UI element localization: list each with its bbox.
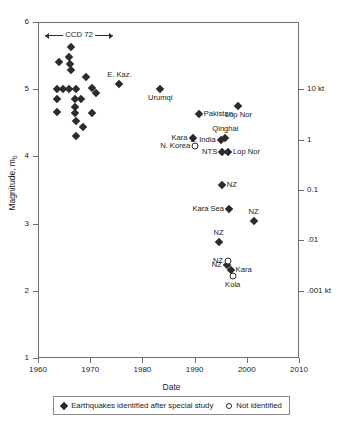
yield-axis-tick-label: .001 kt bbox=[307, 287, 331, 295]
yield-axis-tick bbox=[299, 140, 304, 141]
data-point-label: Qinghai bbox=[212, 125, 238, 133]
legend-item-identified: Earthquakes identified after special stu… bbox=[61, 401, 213, 410]
legend-item-not-identified: Not identified bbox=[226, 401, 282, 410]
chart-legend: Earthquakes identified after special stu… bbox=[53, 396, 290, 415]
ccd-72-arrow-left-icon bbox=[45, 33, 49, 39]
x-axis-tick bbox=[195, 358, 196, 363]
open-circle-icon bbox=[226, 403, 232, 409]
yield-axis-tick bbox=[299, 190, 304, 191]
x-axis-title: Date bbox=[0, 382, 343, 392]
y-axis-tick bbox=[33, 22, 38, 23]
data-point-not-identified bbox=[192, 142, 199, 149]
data-point-label: NZ bbox=[214, 229, 224, 237]
plot-area bbox=[38, 22, 299, 358]
y-axis-tick bbox=[33, 156, 38, 157]
x-axis-tick-label: 2010 bbox=[290, 366, 308, 374]
x-axis-tick-label: 1970 bbox=[81, 366, 99, 374]
data-point-label: Urumqi bbox=[148, 94, 172, 102]
x-axis-tick bbox=[38, 358, 39, 363]
x-axis-tick bbox=[299, 358, 300, 363]
y-axis-tick bbox=[33, 291, 38, 292]
yield-axis-tick-label: 10 kt bbox=[307, 85, 324, 93]
data-point-label: NZ bbox=[227, 181, 237, 189]
yield-axis-tick bbox=[299, 89, 304, 90]
yield-axis-tick-label: .01 bbox=[307, 236, 318, 244]
yield-axis-tick-label: 1 bbox=[307, 136, 311, 144]
ccd-72-arrow-right-icon bbox=[109, 33, 113, 39]
yield-axis-tick bbox=[299, 240, 304, 241]
y-axis-tick-label: 1 bbox=[0, 354, 29, 362]
data-point-label: N. Korea bbox=[160, 142, 190, 150]
y-axis-tick-label: 6 bbox=[0, 18, 29, 26]
chart-root: 12345610 kt10.1.01.001 kt196019701980199… bbox=[0, 0, 343, 433]
y-axis-tick-label: 5 bbox=[0, 85, 29, 93]
y-axis-title: Magnitude, mb bbox=[7, 135, 17, 231]
data-point-not-identified bbox=[229, 273, 236, 280]
data-point-label: Pakistan bbox=[204, 110, 233, 118]
data-point-label: NZ bbox=[213, 257, 223, 265]
legend-label-not-identified: Not identified bbox=[236, 401, 282, 410]
data-point-label: NZ bbox=[249, 208, 259, 216]
data-point-not-identified bbox=[225, 257, 232, 264]
y-axis-tick bbox=[33, 89, 38, 90]
y-axis-tick bbox=[33, 224, 38, 225]
ccd-72-label: CCD 72 bbox=[63, 30, 95, 40]
x-axis-tick bbox=[142, 358, 143, 363]
x-axis-tick bbox=[247, 358, 248, 363]
yield-axis-tick-label: 0.1 bbox=[307, 186, 318, 194]
annotation-ccd-72: CCD 72 bbox=[45, 30, 113, 40]
data-point-label: Kola bbox=[225, 281, 240, 289]
x-axis-tick-label: 1960 bbox=[29, 366, 47, 374]
legend-label-identified: Earthquakes identified after special stu… bbox=[71, 401, 213, 410]
filled-diamond-icon bbox=[60, 401, 68, 409]
data-point-label: E. Kaz. bbox=[107, 71, 131, 79]
data-point-label: Kara bbox=[236, 266, 252, 274]
data-point-label: Kara Sea bbox=[192, 205, 224, 213]
y-axis-tick-label: 2 bbox=[0, 287, 29, 295]
x-axis-tick-label: 1980 bbox=[133, 366, 151, 374]
data-point-label: NTS bbox=[202, 148, 217, 156]
yield-axis-tick bbox=[299, 291, 304, 292]
data-point-label: Lop Nor bbox=[233, 148, 260, 156]
x-axis-tick-label: 1990 bbox=[186, 366, 204, 374]
x-axis-tick-label: 2000 bbox=[238, 366, 256, 374]
x-axis-tick bbox=[90, 358, 91, 363]
